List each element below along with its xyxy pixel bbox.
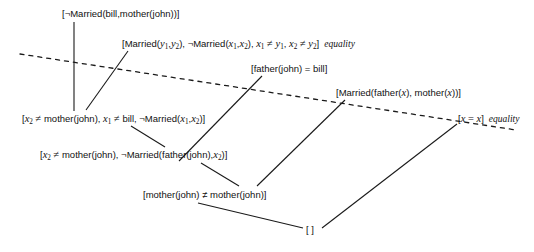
clause-x2-neq-mother-john-x1-neq-bill: [x2 ≠ mother(john), x1 ≠ bill, ¬Married(… [22, 113, 205, 125]
clause-married-father-x-mother-x: [Married(father(x), mother(x))] [336, 87, 461, 99]
edge-n7-to-n8 [201, 163, 239, 186]
edge-n8-to-n9 [198, 203, 303, 228]
clause-married-y1-y2-axiom: [Married(y1,y2), ¬Married(x1,x2), x1 ≠ y… [122, 38, 355, 50]
clause-x-equals-x-axiom: [x = x]equality [458, 113, 519, 125]
clause-text: [father(john) = bill] [251, 63, 327, 74]
edge-n4-to-n8 [257, 100, 345, 186]
clause-text: [x = x] [458, 113, 484, 124]
clause-empty: [ ] [306, 224, 314, 236]
clause-text: [ ] [306, 224, 314, 235]
clause-father-john-equals-bill: [father(john) = bill] [251, 63, 327, 75]
edge-n2-to-n5 [86, 51, 128, 110]
clause-x2-neq-mother-john-not-married-father-john: [x2 ≠ mother(john), ¬Married(father(john… [40, 149, 227, 161]
clause-text: [Married(father(x), mother(x))] [336, 87, 461, 98]
proof-tree-diagram: [¬Married(bill,mother(john))] [Married(y… [0, 0, 534, 252]
clause-text: [x2 ≠ mother(john), x1 ≠ bill, ¬Married(… [22, 113, 205, 124]
clause-text: [¬Married(bill,mother(john))] [62, 8, 179, 19]
clause-not-married-bill-mother-john: [¬Married(bill,mother(john))] [62, 8, 179, 20]
clause-text: [Married(y1,y2), ¬Married(x1,x2), x1 ≠ y… [122, 38, 319, 49]
rule-label-equality: equality [324, 39, 355, 49]
rule-label-equality: equality [489, 114, 520, 124]
clause-text: [mother(john) ≠ mother(john)] [143, 189, 266, 200]
edge-n5-to-n7 [131, 126, 165, 147]
clause-text: [x2 ≠ mother(john), ¬Married(father(john… [40, 149, 227, 160]
edge-n6-to-n9 [322, 124, 457, 228]
clause-mother-john-neq-mother-john: [mother(john) ≠ mother(john)] [143, 189, 266, 201]
